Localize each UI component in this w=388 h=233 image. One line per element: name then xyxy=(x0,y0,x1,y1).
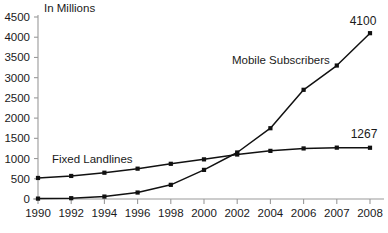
data-point-marker xyxy=(268,126,272,130)
series-annotation-fixed-landlines: Fixed Landlines xyxy=(52,153,133,165)
data-point-marker xyxy=(335,146,339,150)
y-axis-tick-label: 3500 xyxy=(4,51,30,63)
caption-strip xyxy=(0,229,388,233)
y-axis-tick-label: 1500 xyxy=(4,132,30,144)
data-point-marker xyxy=(368,31,372,35)
series-annotation-mobile-subscribers: Mobile Subscribers xyxy=(232,54,330,66)
data-point-marker xyxy=(36,197,40,201)
axis-units-note: In Millions xyxy=(44,2,95,14)
data-point-marker xyxy=(202,168,206,172)
data-point-marker xyxy=(302,146,306,150)
y-axis-tick-label: 1000 xyxy=(4,153,30,165)
y-axis-tick-label: 500 xyxy=(11,173,30,185)
data-point-marker xyxy=(69,196,73,200)
data-point-marker xyxy=(235,150,239,154)
line-chart: 0500100015002000250030003500400045001990… xyxy=(0,0,388,233)
data-point-marker xyxy=(169,183,173,187)
x-axis-tick-label: 2007 xyxy=(324,207,350,219)
data-point-marker xyxy=(136,190,140,194)
x-axis-tick-label: 2000 xyxy=(191,207,217,219)
data-point-marker xyxy=(368,146,372,150)
x-axis-tick-label: 1992 xyxy=(58,207,84,219)
data-point-marker xyxy=(136,167,140,171)
data-point-marker xyxy=(69,174,73,178)
y-axis-tick-label: 2500 xyxy=(4,92,30,104)
x-axis-tick-label: 1990 xyxy=(25,207,51,219)
x-axis-tick-label: 1998 xyxy=(158,207,184,219)
x-axis-tick-label: 2006 xyxy=(291,207,317,219)
x-axis-tick-label: 2004 xyxy=(258,207,284,219)
data-point-marker xyxy=(335,63,339,67)
x-axis-tick-label: 1996 xyxy=(125,207,151,219)
chart-container: 0500100015002000250030003500400045001990… xyxy=(0,0,388,233)
data-point-marker xyxy=(302,88,306,92)
end-value-label-fixed-landlines: 1267 xyxy=(351,127,378,141)
data-point-marker xyxy=(102,194,106,198)
y-axis-tick-label: 4500 xyxy=(4,11,30,23)
y-axis-tick-label: 3000 xyxy=(4,72,30,84)
x-axis-tick-label: 2008 xyxy=(357,207,383,219)
x-axis-tick-label: 1994 xyxy=(92,207,118,219)
y-axis-tick-label: 0 xyxy=(24,193,30,205)
y-axis-tick-label: 4000 xyxy=(4,31,30,43)
data-point-marker xyxy=(169,162,173,166)
data-point-marker xyxy=(36,176,40,180)
y-axis-tick-label: 2000 xyxy=(4,112,30,124)
data-point-marker xyxy=(102,171,106,175)
data-point-marker xyxy=(202,157,206,161)
end-value-label-mobile-subscribers: 4100 xyxy=(350,14,377,28)
data-point-marker xyxy=(268,149,272,153)
x-axis-tick-label: 2002 xyxy=(224,207,250,219)
